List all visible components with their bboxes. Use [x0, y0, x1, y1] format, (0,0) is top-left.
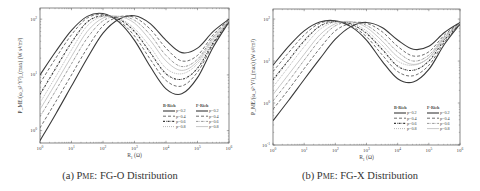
panel-a: 100101102103104105106R1 (Ω)100101102P_ME… — [0, 0, 240, 191]
svg-text:102: 102 — [30, 16, 37, 22]
caption-a-sub: ME — [82, 172, 94, 181]
chart-a-y-axis-label: P_ME/(ω_s²·Y²)_(max) (W s⁴/m²) — [17, 37, 24, 113]
chart-b-y-axis-label: P_ME/(ω_s²·Y²)_(max) (W s⁴/m²) — [250, 39, 257, 115]
chart-a-series-b-rich-p-0-6 — [40, 16, 229, 95]
svg-text:103: 103 — [363, 147, 370, 153]
svg-text:100: 100 — [37, 145, 44, 151]
svg-text:102: 102 — [100, 145, 107, 151]
caption-a: (a) PME: FG-O Distribution — [0, 170, 240, 181]
caption-b: (b) PME: FG-X Distribution — [240, 170, 480, 181]
svg-text:101: 101 — [30, 71, 37, 77]
svg-text:106: 106 — [226, 145, 233, 151]
svg-text:106: 106 — [457, 147, 464, 153]
chart-b-legend: B-Richp=0.2p=0.4p=0.6p=0.8F-Richp=0.2p=0… — [394, 105, 451, 131]
caption-b-suffix: : FG-X Distribution — [335, 170, 418, 181]
chart-a-series-b-rich-p-0-2 — [40, 13, 229, 94]
svg-text:100: 100 — [263, 100, 270, 106]
chart-b-legend-group-title: B-Rich — [394, 105, 407, 110]
chart-a-series-f-rich-p-0-6 — [40, 16, 229, 116]
svg-text:100: 100 — [270, 147, 277, 153]
chart-b-y-axis: 10-1100101102 — [262, 16, 460, 148]
chart-b-plot-frame — [273, 9, 460, 145]
caption-a-prefix: (a) P — [62, 170, 82, 181]
svg-text:101: 101 — [301, 147, 308, 153]
svg-text:102: 102 — [263, 16, 270, 22]
svg-text:105: 105 — [194, 145, 201, 151]
svg-text:104: 104 — [163, 145, 170, 151]
chart-a-series-f-rich-p-0-8 — [40, 16, 229, 110]
chart-b-svg: 100101102103104105106R1 (Ω)10-1100101102… — [240, 0, 480, 191]
caption-b-sub: ME — [323, 172, 335, 181]
svg-text:100: 100 — [30, 127, 37, 133]
chart-a-legend-entry: p=0.8 — [176, 124, 186, 129]
chart-a-svg: 100101102103104105106R1 (Ω)100101102P_ME… — [0, 0, 240, 191]
chart-a-y-axis: 100101102 — [30, 16, 229, 143]
chart-b-series-b-rich-p-0-4 — [273, 21, 460, 76]
panel-b: 100101102103104105106R1 (Ω)10-1100101102… — [240, 0, 480, 191]
chart-a-series-group — [40, 13, 229, 140]
chart-b-legend-entry: p=0.8 — [407, 126, 417, 131]
chart-a-x-axis-label: R1 (Ω) — [127, 152, 142, 160]
svg-text:102: 102 — [332, 147, 339, 153]
chart-a-x-axis: 100101102103104105106 — [37, 8, 233, 151]
svg-text:101: 101 — [263, 58, 270, 64]
chart-a-series-b-rich-p-0-4 — [40, 15, 229, 87]
chart-b-legend-group-title: F-Rich — [427, 105, 440, 110]
svg-text:103: 103 — [131, 145, 138, 151]
chart-a-legend: B-Richp=0.2p=0.4p=0.6p=0.8F-Richp=0.2p=0… — [163, 103, 220, 129]
caption-a-suffix: : FG-O Distribution — [94, 170, 177, 181]
chart-b-series-b-rich-p-0-6 — [273, 22, 460, 80]
chart-b-x-axis-label: R1 (Ω) — [359, 154, 374, 162]
svg-text:101: 101 — [68, 145, 75, 151]
chart-b-legend-entry: p=0.8 — [440, 126, 450, 131]
chart-a-series-b-rich-p-0-8 — [40, 16, 229, 103]
chart-a-plot-frame — [40, 8, 229, 143]
svg-text:104: 104 — [394, 147, 401, 153]
chart-a-legend-group-title: B-Rich — [163, 103, 176, 108]
svg-text:105: 105 — [425, 147, 432, 153]
svg-text:10-1: 10-1 — [262, 142, 270, 148]
chart-a-legend-group-title: F-Rich — [196, 103, 209, 108]
chart-a-legend-entry: p=0.8 — [209, 124, 219, 129]
caption-b-prefix: (b) P — [302, 170, 323, 181]
